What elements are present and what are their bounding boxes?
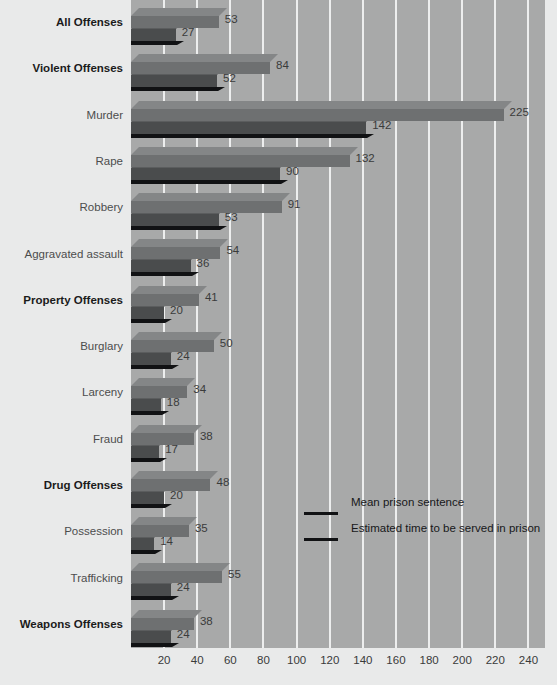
category-label: Larceny xyxy=(0,386,123,398)
chart-row: Trafficking5524 xyxy=(131,555,545,601)
bar-front-face xyxy=(131,75,217,87)
bar-front-face xyxy=(131,201,282,213)
bar-value-label: 55 xyxy=(228,568,241,580)
bar-shadow xyxy=(131,596,171,600)
bar-shadow xyxy=(131,550,154,554)
legend-label: Mean prison sentence xyxy=(351,496,464,508)
bar-top-face xyxy=(131,54,278,62)
chart-row: Robbery9153 xyxy=(131,185,545,231)
bar-front-face xyxy=(131,571,222,583)
bar-front-face xyxy=(131,525,189,537)
bar-shadow xyxy=(131,411,161,415)
bar-top-face xyxy=(131,286,207,294)
x-tick-label: 240 xyxy=(519,654,538,666)
x-tick-label: 60 xyxy=(224,654,237,666)
bar-top-face xyxy=(131,610,202,618)
bar-front-face xyxy=(131,247,220,259)
x-tick-label: 180 xyxy=(419,654,438,666)
bar-front-face xyxy=(131,109,504,121)
bar-front-face xyxy=(131,294,199,306)
bar-shadow xyxy=(131,365,171,369)
chart-row: Weapons Offenses3824 xyxy=(131,602,545,648)
bar-top-face xyxy=(131,471,218,479)
x-tick-label: 140 xyxy=(353,654,372,666)
chart-row: Rape13290 xyxy=(131,139,545,185)
bar-top-face xyxy=(131,517,197,525)
bar-front-face xyxy=(131,446,159,458)
chart-plot-area: All Offenses5327Violent Offenses8452Murd… xyxy=(131,0,545,648)
bar-front-face xyxy=(131,353,171,365)
x-tick-label: 160 xyxy=(386,654,405,666)
bar-value-label: 34 xyxy=(193,383,206,395)
x-tick-label: 100 xyxy=(287,654,306,666)
bar-top-face xyxy=(131,425,202,433)
bar-shadow xyxy=(131,319,164,323)
bar-shadow xyxy=(131,272,191,276)
chart-row: Fraud3817 xyxy=(131,417,545,463)
x-tick-label: 200 xyxy=(453,654,472,666)
bar-top-face xyxy=(131,147,358,155)
bar-value-label: 50 xyxy=(220,337,233,349)
chart-row: Burglary5024 xyxy=(131,324,545,370)
chart-row: Aggravated assault5436 xyxy=(131,231,545,277)
x-axis: 20406080100120140160180200220240 xyxy=(131,650,545,672)
bar-value-label: 84 xyxy=(276,59,289,71)
chart-row: All Offenses5327 xyxy=(131,0,545,46)
bar-front-face xyxy=(131,214,219,226)
x-tick-label: 40 xyxy=(191,654,204,666)
bar-top-face xyxy=(131,563,230,571)
x-tick-label: 80 xyxy=(257,654,270,666)
bar-front-face xyxy=(131,631,171,643)
bar-value-label: 38 xyxy=(200,615,213,627)
bar-value-label: 91 xyxy=(288,198,301,210)
bar-front-face xyxy=(131,492,164,504)
category-label: Violent Offenses xyxy=(0,62,123,74)
bar-value-label: 132 xyxy=(356,152,375,164)
bar-value-label: 225 xyxy=(510,106,529,118)
bar-front-face xyxy=(131,433,194,445)
bar-front-face xyxy=(131,584,171,596)
bar-front-face xyxy=(131,16,219,28)
bar-shadow xyxy=(131,41,176,45)
category-label: All Offenses xyxy=(0,16,123,28)
x-tick-label: 120 xyxy=(320,654,339,666)
legend-swatch-icon xyxy=(304,520,338,540)
category-label: Drug Offenses xyxy=(0,479,123,491)
bar-value-label: 54 xyxy=(226,244,239,256)
category-label: Fraud xyxy=(0,433,123,445)
category-label: Trafficking xyxy=(0,572,123,584)
bar-value-label: 53 xyxy=(225,13,238,25)
bar-value-label: 38 xyxy=(200,430,213,442)
bar-front-face xyxy=(131,122,366,134)
bar-top-face xyxy=(131,193,290,201)
bar-front-face xyxy=(131,399,161,411)
chart-rows: All Offenses5327Violent Offenses8452Murd… xyxy=(131,0,545,648)
category-label: Rape xyxy=(0,155,123,167)
bar-shadow xyxy=(131,134,366,138)
chart-row: Drug Offenses4820 xyxy=(131,463,545,509)
bar-front-face xyxy=(131,307,164,319)
bar-top-face xyxy=(131,332,222,340)
chart-row: Property Offenses4120 xyxy=(131,278,545,324)
bar-front-face xyxy=(131,386,187,398)
x-tick-label: 20 xyxy=(158,654,171,666)
bar-top-face xyxy=(131,101,512,109)
bar-front-face xyxy=(131,260,191,272)
legend-swatch-icon xyxy=(304,494,338,514)
bar-top-face xyxy=(131,378,195,386)
category-label: Aggravated assault xyxy=(0,248,123,260)
category-label: Possession xyxy=(0,525,123,537)
bar-shadow xyxy=(131,458,159,462)
bar-front-face xyxy=(131,155,350,167)
chart-row: Murder225142 xyxy=(131,93,545,139)
bar-value-label: 41 xyxy=(205,291,218,303)
legend-label: Estimated time to be served in prison xyxy=(351,522,540,534)
x-tick-label: 220 xyxy=(486,654,505,666)
bar-shadow xyxy=(131,180,280,184)
category-label: Murder xyxy=(0,109,123,121)
bar-top-face xyxy=(131,239,228,247)
bar-shadow xyxy=(131,643,171,647)
bar-front-face xyxy=(131,340,214,352)
bar-top-face xyxy=(131,8,227,16)
category-label: Burglary xyxy=(0,340,123,352)
